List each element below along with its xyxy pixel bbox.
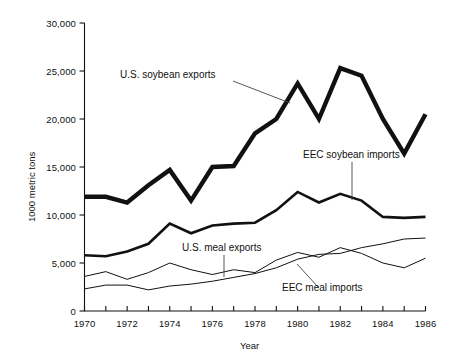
chart-figure: 05,00010,00015,00020,00025,00030,000 197… bbox=[0, 0, 456, 362]
y-tick-label: 30,000 bbox=[30, 18, 76, 29]
y-tick-label: 20,000 bbox=[30, 114, 76, 125]
x-tick-label: 1974 bbox=[159, 318, 181, 329]
x-tick-label: 1984 bbox=[372, 318, 394, 329]
x-tick-label: 1970 bbox=[74, 318, 96, 329]
series-line bbox=[85, 68, 426, 202]
y-tick-label: 5,000 bbox=[30, 258, 76, 269]
y-tick-label: 25,000 bbox=[30, 66, 76, 77]
x-axis-title: Year bbox=[240, 340, 259, 351]
x-tick-label: 1978 bbox=[244, 318, 266, 329]
series-lines bbox=[85, 68, 426, 290]
x-tick-label: 1980 bbox=[287, 318, 309, 329]
axis-tick-marks bbox=[80, 23, 426, 311]
series-annotation-eec-meal-imports: EEC meal imports bbox=[282, 282, 363, 293]
series-annotation-us-soybean-exports: U.S. soybean exports bbox=[120, 69, 216, 80]
series-annotation-us-meal-exports: U.S. meal exports bbox=[182, 242, 261, 253]
y-tick-label: 0 bbox=[30, 306, 76, 317]
y-axis-title: 1000 metric tons bbox=[26, 152, 37, 222]
x-tick-label: 1976 bbox=[202, 318, 224, 329]
x-tick-label: 1982 bbox=[329, 318, 351, 329]
x-tick-label: 1972 bbox=[116, 318, 138, 329]
x-tick-label: 1986 bbox=[415, 318, 437, 329]
axis-lines bbox=[85, 23, 426, 311]
series-annotation-eec-soybean-imports: EEC soybean imports bbox=[303, 149, 400, 160]
leader-line bbox=[233, 81, 290, 103]
